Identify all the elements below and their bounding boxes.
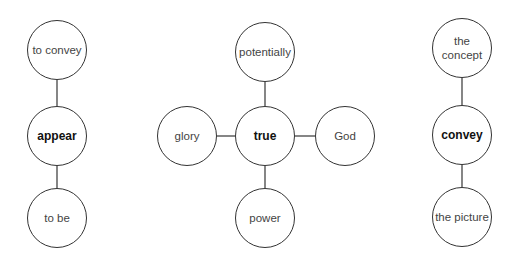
node-label: appear [37, 129, 76, 144]
node-label: God [334, 129, 356, 143]
node-label: convey [441, 128, 482, 143]
node-convey: convey [432, 105, 492, 165]
node-label: to be [44, 211, 70, 225]
node-to-be: to be [27, 188, 87, 248]
node-god: God [315, 106, 375, 166]
node-label: potentially [239, 45, 291, 59]
node-label: glory [175, 129, 200, 143]
node-appear: appear [27, 106, 87, 166]
node-true: true [235, 106, 295, 166]
node-label: the concept [433, 34, 491, 63]
node-label: power [249, 211, 280, 225]
node-to-convey: to convey [27, 20, 87, 80]
node-power: power [235, 188, 295, 248]
node-glory: glory [157, 106, 217, 166]
node-label: the picture [435, 210, 489, 224]
node-label: true [254, 129, 277, 144]
node-potentially: potentially [235, 22, 295, 82]
node-the-concept: the concept [432, 18, 492, 78]
node-the-picture: the picture [432, 187, 492, 247]
node-label: to convey [32, 43, 81, 57]
